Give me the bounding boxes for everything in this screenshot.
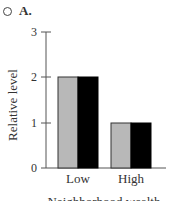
y-tick-labels: 3 2 1 0 — [31, 25, 37, 175]
bar-high-series-1 — [111, 123, 131, 168]
bar-low-series-2 — [78, 77, 98, 168]
x-axis-title: Neighborhood wealth — [47, 194, 161, 201]
bar-high-series-2 — [131, 123, 151, 168]
category-label-high: High — [118, 171, 145, 186]
y-tick-2: 2 — [31, 70, 37, 84]
bar-low-series-1 — [58, 77, 78, 168]
y-tick-0: 0 — [31, 161, 37, 175]
y-axis-title: Relative level — [5, 69, 20, 141]
category-label-low: Low — [66, 171, 90, 186]
y-tick-1: 1 — [31, 116, 37, 130]
bar-chart: 3 2 1 0 Low High Relative level Neighbor… — [0, 0, 187, 201]
y-tick-3: 3 — [31, 25, 37, 39]
